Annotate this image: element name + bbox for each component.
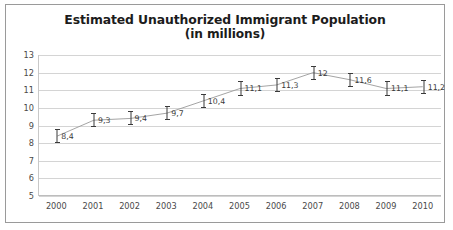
data-point-label: 11,1 [391, 84, 408, 93]
chart-title: Estimated Unauthorized Immigrant Populat… [6, 12, 444, 42]
y-axis-tick-label: 8 [29, 138, 34, 148]
y-axis-tick-label: 6 [29, 173, 34, 183]
y-axis-tick-label: 9 [29, 121, 34, 131]
error-bar [130, 111, 131, 125]
error-bar [57, 129, 58, 143]
x-axis-tick-label: 2001 [83, 201, 104, 211]
error-bar [167, 106, 168, 120]
error-bar [313, 66, 314, 80]
chart-title-main: Estimated Unauthorized Immigrant Populat… [6, 12, 444, 27]
data-point-label: 9,4 [135, 114, 147, 123]
x-axis-labels: 2000200120022003200420052006200720082009… [38, 201, 441, 217]
y-axis-tick-label: 10 [24, 103, 34, 113]
x-axis-tick-label: 2005 [229, 201, 250, 211]
data-point-label: 8,4 [61, 132, 73, 141]
y-axis-tick-label: 13 [24, 50, 34, 60]
data-point-label: 11,2 [428, 82, 445, 91]
data-point-label: 11,1 [245, 84, 262, 93]
gridline [39, 196, 441, 197]
error-bar [203, 94, 204, 108]
x-axis-tick-label: 2010 [412, 201, 433, 211]
error-bar [423, 80, 424, 94]
y-axis-tick-label: 5 [29, 191, 34, 201]
x-axis-tick-label: 2009 [376, 201, 397, 211]
error-bar [93, 113, 94, 127]
x-axis-tick-label: 2006 [266, 201, 287, 211]
error-bar [277, 78, 278, 92]
x-axis-tick-label: 2003 [156, 201, 177, 211]
plot-area: 5678910111213 8,49,39,49,710,411,111,312… [38, 55, 441, 196]
chart-frame: Estimated Unauthorized Immigrant Populat… [5, 4, 445, 223]
x-axis-tick-label: 2007 [302, 201, 323, 211]
x-axis-tick-label: 2002 [119, 201, 140, 211]
x-axis-tick-label: 2008 [339, 201, 360, 211]
data-point-label: 12 [318, 68, 328, 77]
x-axis-tick-label: 2000 [46, 201, 67, 211]
x-axis-tick-label: 2004 [192, 201, 213, 211]
series-line [39, 55, 441, 196]
error-bar [240, 81, 241, 95]
data-point-label: 10,4 [208, 96, 225, 105]
chart-title-subtitle: (in millions) [6, 27, 444, 42]
y-axis-tick-label: 12 [24, 68, 34, 78]
error-bar [387, 81, 388, 95]
data-point-label: 9,7 [171, 109, 183, 118]
data-point-label: 11,3 [281, 80, 298, 89]
y-axis-tick-label: 7 [29, 156, 34, 166]
data-point-label: 11,6 [354, 75, 371, 84]
y-axis-tick-label: 11 [24, 85, 34, 95]
data-point-label: 9,3 [98, 116, 110, 125]
error-bar [350, 73, 351, 87]
